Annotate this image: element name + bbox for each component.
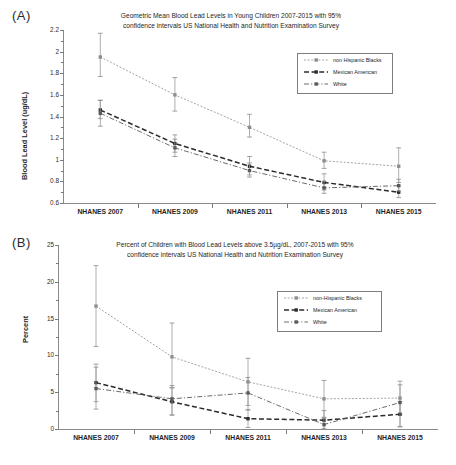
legend-line-icon <box>283 317 309 327</box>
data-point-marker <box>322 423 325 426</box>
panel-b: (B) Percent of Children with Blood Lead … <box>0 233 456 465</box>
data-point-marker <box>246 417 249 420</box>
legend-item[interactable]: Mexican American <box>278 304 381 316</box>
legend-line-icon <box>283 293 309 303</box>
panel-b-legend: non-Hispanic BlacksMexican AmericanWhite <box>277 291 382 332</box>
data-point-marker <box>99 55 102 58</box>
data-point-marker <box>397 165 400 168</box>
data-point-marker <box>322 159 325 162</box>
series-layer <box>0 233 456 465</box>
data-point-marker <box>322 186 325 189</box>
data-point-marker <box>173 93 176 96</box>
legend-item-label: Mexican American <box>333 69 377 75</box>
legend-item-label: non-Hispanic Blacks <box>313 295 362 301</box>
legend-item[interactable]: White <box>298 78 392 90</box>
legend-line-icon <box>303 55 329 65</box>
data-point-marker <box>99 112 102 115</box>
data-point-marker <box>173 146 176 149</box>
legend-item[interactable]: non Hispanic Blacks <box>298 54 392 66</box>
data-point-marker <box>248 126 251 129</box>
legend-item[interactable]: non-Hispanic Blacks <box>278 292 381 304</box>
data-point-marker <box>94 387 97 390</box>
legend-item-label: White <box>333 81 347 87</box>
legend-line-icon <box>303 79 329 89</box>
data-point-marker <box>94 304 97 307</box>
data-point-marker <box>322 397 325 400</box>
figure-container: (A) Geometric Mean Blood Lead Levels in … <box>0 0 456 465</box>
panel-b-plot-area: 2520151050NHANES 2007NHANES 2009NHANES 2… <box>0 233 456 465</box>
data-point-marker <box>248 169 251 172</box>
panel-a-legend: non Hispanic BlacksMexican AmericanWhite <box>297 53 393 94</box>
legend-item-label: non Hispanic Blacks <box>333 57 382 63</box>
data-point-marker <box>170 355 173 358</box>
legend-item[interactable]: White <box>278 316 381 328</box>
data-point-marker <box>398 401 401 404</box>
legend-line-icon <box>303 67 329 77</box>
legend-item-label: White <box>313 319 327 325</box>
series-layer <box>0 0 456 233</box>
data-point-marker <box>246 391 249 394</box>
data-point-marker <box>397 184 400 187</box>
legend-line-icon <box>283 305 309 315</box>
legend-item[interactable]: Mexican American <box>298 66 392 78</box>
data-point-marker <box>170 397 173 400</box>
panel-a-plot-area: 2.221.81.61.41.210.80.6NHANES 2007NHANES… <box>0 0 456 233</box>
legend-item-label: Mexican American <box>313 307 357 313</box>
panel-a: (A) Geometric Mean Blood Lead Levels in … <box>0 0 456 233</box>
